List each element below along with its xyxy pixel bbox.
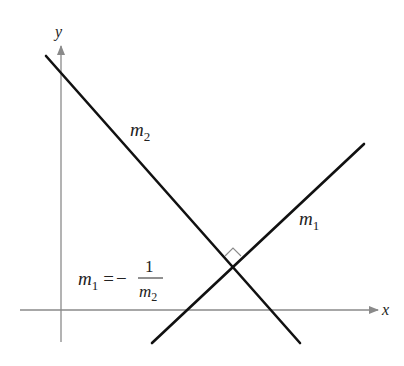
y-axis-label: y bbox=[53, 23, 63, 41]
x-axis-label: x bbox=[381, 301, 389, 318]
svg-text:m1=−: m1=− bbox=[78, 268, 127, 293]
formula-numerator: 1 bbox=[145, 257, 154, 276]
slope-formula: m1=− 1 m2 bbox=[78, 257, 163, 304]
right-angle-marker bbox=[225, 248, 241, 256]
line-m2-label: m2 bbox=[130, 119, 150, 144]
line-m1-label: m1 bbox=[299, 208, 319, 233]
line-m2 bbox=[46, 56, 300, 343]
formula-denominator: m2 bbox=[139, 282, 157, 304]
line-m1 bbox=[152, 144, 364, 343]
perpendicular-lines-diagram: x y m2 m1 m1=− 1 m2 bbox=[0, 0, 404, 366]
